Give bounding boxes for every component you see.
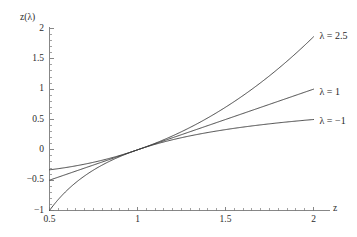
y-tick-label: 2	[8, 24, 44, 34]
y-tick-label: 0	[8, 145, 44, 155]
data-curves-group	[50, 37, 314, 211]
y-tick-label: 0.5	[8, 115, 44, 125]
data-curve-2	[50, 120, 314, 211]
series-label-1: λ = 1	[320, 87, 341, 97]
series-label-2: λ = −1	[320, 116, 346, 126]
y-tick-label: −0.5	[8, 175, 44, 185]
x-tick-label: 2	[294, 215, 334, 225]
data-curve-1	[50, 89, 314, 180]
x-tick-label: 0.5	[30, 215, 70, 225]
tick-marks-group	[50, 29, 314, 211]
y-axis-title: z(λ)	[20, 13, 35, 23]
y-tick-label: 1	[8, 84, 44, 94]
plot-canvas	[0, 0, 357, 237]
x-axis-title: z	[333, 204, 337, 214]
y-tick-label: 1.5	[8, 54, 44, 64]
x-tick-label: 1	[118, 215, 158, 225]
x-tick-label: 1.5	[206, 215, 246, 225]
axes-group	[50, 27, 331, 211]
series-label-0: λ = 2.5	[320, 31, 348, 41]
box-cox-transformation-chart: 21.510.50−0.5−1 0.511.52 z(λ) z λ = 2.5λ…	[0, 0, 357, 237]
